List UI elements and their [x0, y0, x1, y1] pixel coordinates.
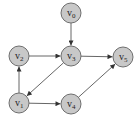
node-label-subscript: 4	[72, 103, 76, 111]
arrow-line	[27, 63, 64, 96]
node-v2: v2	[9, 46, 29, 66]
arrow-line	[29, 103, 61, 104]
edge-v4-to-v5	[78, 64, 115, 97]
node-v5: v5	[113, 47, 133, 67]
edge-v1-to-v4	[29, 103, 61, 104]
node-label-subscript: 1	[20, 102, 24, 110]
node-v4: v4	[61, 94, 81, 114]
node-label-subscript: 5	[124, 56, 128, 64]
nodes-layer: v0v1v2v3v4v5	[9, 3, 133, 114]
node-label-subscript: 2	[20, 55, 24, 63]
node-label-subscript: 0	[72, 12, 76, 20]
edge-v3-to-v1	[27, 63, 64, 96]
edge-v3-to-v5	[81, 56, 113, 57]
node-v0: v0	[61, 3, 81, 23]
directed-graph: v0v1v2v3v4v5	[0, 0, 138, 119]
node-label-subscript: 3	[72, 55, 76, 63]
arrow-line	[78, 64, 115, 97]
arrow-line	[81, 56, 113, 57]
node-v3: v3	[61, 46, 81, 66]
node-v1: v1	[9, 93, 29, 113]
